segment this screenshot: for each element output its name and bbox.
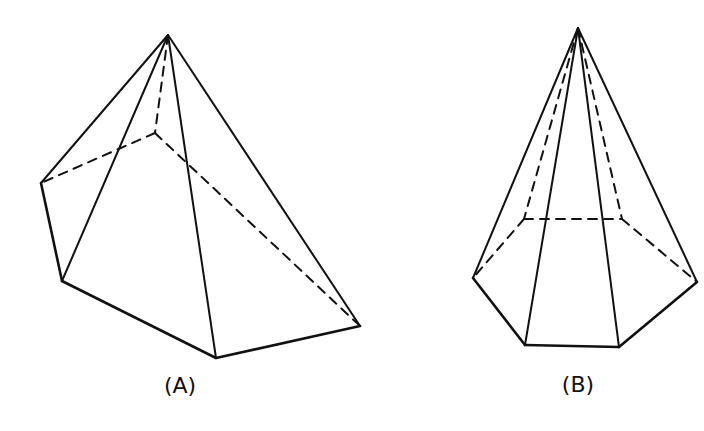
visible-edge-apex-right	[168, 35, 360, 326]
pyramids-diagram: (A) (B)	[0, 0, 704, 431]
pyramid-a-hidden-edges	[41, 35, 360, 326]
visible-edge-apex-right	[578, 28, 697, 282]
hidden-edge-back-right	[155, 133, 360, 326]
visible-edge-apex-front_right	[578, 28, 619, 347]
visible-edge-apex-front_left	[62, 35, 168, 281]
visible-edge-bottom-right	[216, 326, 360, 358]
pyramid-a-label: (A)	[164, 373, 196, 398]
visible-edge-apex-left	[473, 28, 578, 278]
visible-edge-left-front_left	[41, 183, 62, 281]
visible-edge-front_right-right	[619, 282, 697, 347]
pyramid-b-label: (B)	[562, 372, 594, 397]
pyramid-b: (B)	[473, 28, 697, 397]
pyramid-a-visible-edges	[41, 35, 360, 358]
pyramid-b-hidden-edges	[473, 28, 697, 282]
hidden-edge-back_right-right	[622, 219, 697, 282]
hidden-edge-apex-back_right	[578, 28, 622, 219]
visible-edge-left-front_left	[473, 278, 525, 345]
visible-edge-front_left-front_right	[525, 345, 619, 347]
visible-edge-apex-left	[41, 35, 168, 183]
pyramid-a: (A)	[41, 35, 360, 398]
pyramid-b-visible-edges	[473, 28, 697, 347]
hidden-edge-back-left	[41, 133, 155, 183]
hidden-edge-back_left-left	[473, 219, 524, 278]
visible-edge-apex-bottom	[168, 35, 216, 358]
visible-edge-front_left-bottom	[62, 281, 216, 358]
